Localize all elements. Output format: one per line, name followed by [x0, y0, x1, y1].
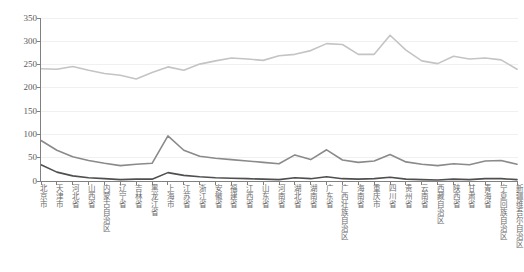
x-axis-tick-label: 天津市 — [51, 184, 62, 208]
x-axis-tick-label: 新疆维吾尔自治区 — [512, 184, 523, 248]
x-axis-tick-label: 河南省 — [274, 184, 285, 208]
x-axis-tick-label: 上海市 — [162, 184, 173, 208]
x-axis-tick-label: 北京市 — [36, 184, 47, 208]
y-axis-tick-label: 250 — [3, 60, 37, 69]
y-axis-tick-label: 350 — [3, 14, 37, 23]
x-axis-tick-label: 山东省 — [258, 184, 269, 208]
x-axis-tick-label: 西藏自治区 — [432, 184, 443, 224]
x-axis-tick-label: 宁夏回族自治区 — [496, 184, 507, 240]
y-axis-tick-label: 150 — [3, 107, 37, 116]
x-axis-tick-label: 四川省 — [385, 184, 396, 208]
y-axis-tick-label: 0 — [3, 177, 37, 186]
x-axis-tick-label: 重庆市 — [369, 184, 380, 208]
x-axis-tick-label: 海南省 — [353, 184, 364, 208]
x-axis-tick-label: 贵州省 — [400, 184, 411, 208]
x-axis-tick-label: 江西省 — [242, 184, 253, 208]
x-axis-tick-label: 辽宁省 — [115, 184, 126, 208]
y-axis-tick-label: 200 — [3, 83, 37, 92]
y-axis-tick-label: 50 — [3, 153, 37, 162]
x-axis-tick-label: 湖北省 — [289, 184, 300, 208]
x-axis-labels: 北京市天津市河北省山西省内蒙古自治区辽宁省吉林省黑龙江省上海市江苏省浙江省安徽省… — [40, 184, 518, 270]
x-axis-tick-label: 青海省 — [480, 184, 491, 208]
x-axis-tick-label: 浙江省 — [194, 184, 205, 208]
y-axis-labels: 050100150200250300350 — [0, 18, 37, 181]
x-axis-tick-label: 福建省 — [226, 184, 237, 208]
plot-area — [40, 18, 518, 181]
x-axis-tick-label: 山西省 — [83, 184, 94, 208]
x-axis-tick-label: 云南省 — [416, 184, 427, 208]
x-axis-tick-label: 广东省 — [321, 184, 332, 208]
x-axis-tick-label: 甘肃省 — [464, 184, 475, 208]
line-chart: 050100150200250300350 北京市天津市河北省山西省内蒙古自治区… — [0, 0, 524, 272]
x-axis-tick-label: 江苏省 — [178, 184, 189, 208]
x-axis-tick-label: 湖南省 — [305, 184, 316, 208]
x-axis-tick-label: 河北省 — [67, 184, 78, 208]
x-axis-tick-label: 黑龙江省 — [147, 184, 158, 216]
x-axis-tick-label: 广西壮族自治区 — [337, 184, 348, 240]
y-axis-tick-label: 300 — [3, 37, 37, 46]
axis-layer — [40, 18, 518, 181]
x-axis-tick-label: 安徽省 — [210, 184, 221, 208]
x-axis-tick-label: 吉林省 — [131, 184, 142, 208]
x-axis-tick-label: 陕西省 — [448, 184, 459, 208]
x-axis-tick-label: 内蒙古自治区 — [99, 184, 110, 232]
y-axis-tick-label: 100 — [3, 130, 37, 139]
